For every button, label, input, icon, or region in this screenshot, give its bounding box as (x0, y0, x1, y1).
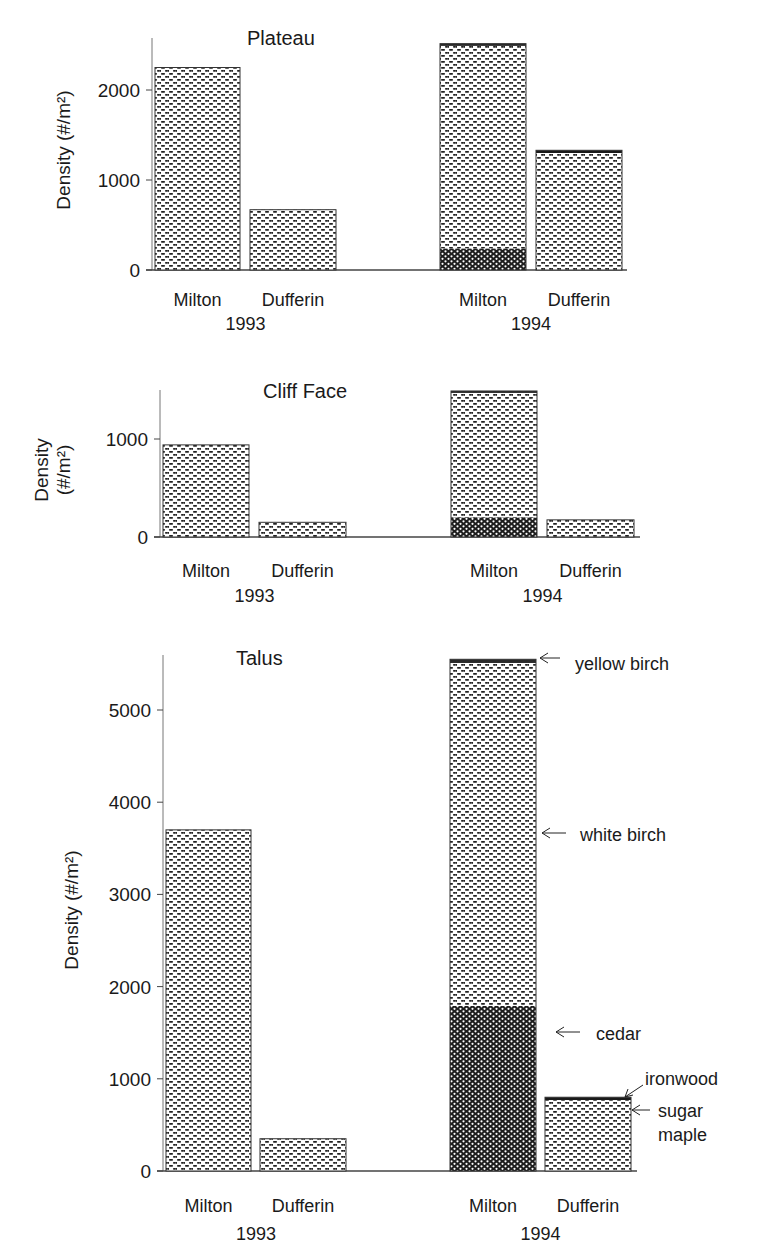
x-category-label: Milton (459, 290, 507, 310)
bar-segment-cedar (440, 248, 526, 270)
annotation-ironwood: ironwood (625, 1069, 718, 1097)
annotation-label: sugar (658, 1101, 703, 1121)
bar-segment-white-birch (450, 663, 536, 1006)
chart-panel-talus: Talus010002000300040005000Density (#/m²)… (61, 647, 718, 1244)
annotation-sugar-maple: sugarmaple (632, 1101, 707, 1145)
y-tick-label: 0 (140, 1161, 151, 1182)
bar-milton-1994 (440, 44, 526, 270)
x-group-year-label: 1994 (511, 314, 551, 334)
y-tick-label: 0 (137, 527, 148, 548)
x-group-year-label: 1994 (522, 586, 562, 606)
x-group-year-label: 1993 (234, 586, 274, 606)
y-tick-label: 1000 (109, 1069, 151, 1090)
y-axis-label: Density (31, 438, 52, 502)
bar-dufferin-1994 (545, 1097, 631, 1171)
y-tick-label: 1000 (106, 429, 148, 450)
bar-segment-white-birch (166, 830, 251, 1171)
bar-dufferin-1994 (547, 520, 634, 537)
y-tick-label: 1000 (98, 170, 140, 191)
y-axis-label: Density (#/m²) (61, 850, 82, 969)
bar-segment-sugar-maple (545, 1100, 631, 1171)
bar-segment-cedar (450, 1006, 536, 1171)
bar-dufferin-1994 (536, 150, 622, 270)
bar-segment-white-birch (440, 46, 526, 249)
bar-segment-white-birch (155, 68, 240, 271)
annotation-label: maple (658, 1125, 707, 1145)
x-group-year-label: 1993 (236, 1224, 276, 1244)
x-category-label: Milton (469, 1196, 517, 1216)
bar-segment-white-birch (547, 520, 634, 537)
bar-segment-cedar (451, 517, 537, 537)
x-category-label: Dufferin (548, 290, 611, 310)
bar-milton-1994 (450, 659, 536, 1171)
y-tick-label: 4000 (109, 792, 151, 813)
bar-segment-white-birch (260, 1139, 346, 1171)
x-group-year-label: 1994 (520, 1224, 560, 1244)
bar-milton-1993 (155, 68, 240, 271)
annotation-label: white birch (579, 825, 666, 845)
chart-title: Talus (236, 647, 283, 669)
annotation-yellow-birch: yellow birch (540, 653, 669, 674)
chart-title: Plateau (247, 27, 315, 49)
bar-segment-white-birch (536, 153, 622, 266)
y-tick-label: 0 (129, 260, 140, 281)
y-axis-label: Density (#/m²) (53, 90, 74, 209)
x-category-label: Milton (470, 561, 518, 581)
chart-panel-plateau: Plateau010002000Density (#/m²)MiltonDuff… (53, 27, 627, 334)
annotation-label: yellow birch (575, 654, 669, 674)
annotation-label: cedar (596, 1024, 641, 1044)
x-category-label: Dufferin (559, 561, 622, 581)
bar-dufferin-1993 (259, 522, 346, 537)
x-category-label: Dufferin (557, 1196, 620, 1216)
x-category-label: Milton (184, 1196, 232, 1216)
y-tick-label: 5000 (109, 700, 151, 721)
y-tick-label: 3000 (109, 884, 151, 905)
annotation-label: ironwood (645, 1069, 718, 1089)
bar-dufferin-1993 (260, 1139, 346, 1171)
x-category-label: Milton (182, 561, 230, 581)
annotation-white-birch: white birch (542, 825, 666, 845)
bar-segment-white-birch (163, 445, 249, 537)
y-axis-label: (#/m²) (53, 445, 74, 496)
x-group-year-label: 1993 (225, 314, 265, 334)
y-tick-label: 2000 (109, 977, 151, 998)
bar-segment-white-birch (250, 210, 336, 270)
bar-milton-1993 (166, 830, 251, 1171)
figure: Plateau010002000Density (#/m²)MiltonDuff… (0, 0, 760, 1257)
chart-title: Cliff Face (263, 380, 347, 402)
annotation-cedar: cedar (556, 1024, 641, 1044)
bar-dufferin-1993 (250, 210, 336, 270)
bar-milton-1994 (451, 391, 537, 537)
x-category-label: Milton (173, 290, 221, 310)
x-category-label: Dufferin (271, 561, 334, 581)
x-category-label: Dufferin (262, 290, 325, 310)
bar-milton-1993 (163, 445, 249, 537)
x-category-label: Dufferin (272, 1196, 335, 1216)
bar-segment-yellow-birch (450, 659, 536, 663)
y-tick-label: 2000 (98, 80, 140, 101)
bar-segment-white-birch (259, 522, 346, 537)
bar-segment-white-birch (451, 393, 537, 517)
bar-segment-sugar-maple (536, 266, 622, 270)
chart-panel-cliff-face: Cliff Face01000Density(#/m²)MiltonDuffer… (31, 380, 640, 606)
